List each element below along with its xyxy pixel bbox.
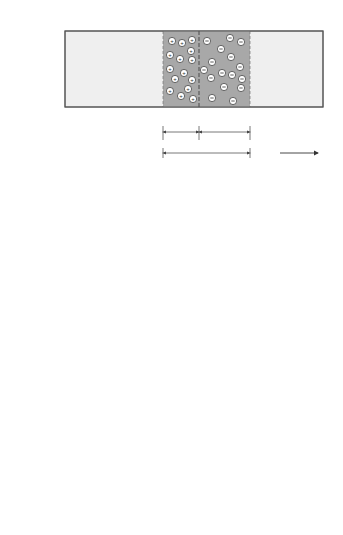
svg-text:+: + (178, 56, 182, 62)
figure-canvas: +++ + +++ ++ ++ + +++ (0, 0, 343, 535)
svg-text:+: + (189, 48, 193, 54)
svg-text:+: + (190, 57, 194, 63)
svg-text:+: + (190, 77, 194, 83)
svg-text:+: + (190, 37, 194, 43)
svg-text:+: + (168, 66, 172, 72)
svg-text:+: + (168, 88, 172, 94)
svg-text:+: + (179, 93, 183, 99)
svg-text:+: + (168, 52, 172, 58)
svg-text:+: + (191, 96, 195, 102)
svg-text:+: + (173, 76, 177, 82)
svg-text:+: + (170, 38, 174, 44)
width-dimensions (163, 126, 250, 158)
panel-a: +++ + +++ ++ ++ + +++ (0, 0, 323, 158)
svg-text:+: + (180, 40, 184, 46)
svg-text:+: + (182, 70, 186, 76)
svg-text:+: + (186, 86, 190, 92)
pn-junction-figure: +++ + +++ ++ ++ + +++ (0, 0, 343, 535)
